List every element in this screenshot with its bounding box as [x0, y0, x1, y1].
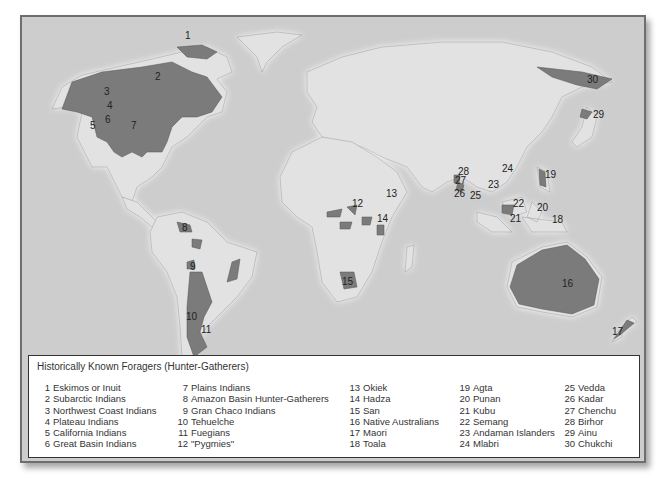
- legend-column-2: 7Plains Indians 8Amazon Basin Hunter-Gat…: [175, 382, 329, 450]
- map-label-3: 3: [104, 86, 110, 97]
- map-label-10: 10: [186, 311, 198, 322]
- legend-item: 10Tehuelche: [175, 416, 329, 427]
- map-label-11: 11: [201, 324, 212, 335]
- legend-item: 15San: [347, 405, 439, 416]
- legend-item: 20Punan: [457, 393, 555, 404]
- legend-item: 24Mlabri: [457, 438, 555, 449]
- map-label-19: 19: [545, 169, 557, 180]
- legend-item: 7Plains Indians: [175, 382, 329, 393]
- map-label-22: 22: [513, 198, 525, 209]
- map-label-6: 6: [105, 114, 111, 125]
- legend-item: 18Toala: [347, 438, 439, 449]
- legend-item: 21Kubu: [457, 405, 555, 416]
- legend-column-1: 1Eskimos or Inuit 2Subarctic Indians 3No…: [37, 382, 157, 450]
- legend-item: 29Ainu: [562, 427, 616, 438]
- map-label-23: 23: [488, 179, 500, 190]
- legend-item: 27Chenchu: [562, 405, 616, 416]
- legend-item: 17Maori: [347, 427, 439, 438]
- map-label-17: 17: [612, 326, 624, 337]
- legend-item: 1Eskimos or Inuit: [37, 382, 157, 393]
- legend-item: 3Northwest Coast Indians: [37, 405, 157, 416]
- legend-item: 16Native Australians: [347, 416, 439, 427]
- map-label-24: 24: [502, 163, 514, 174]
- legend-item: 22Semang: [457, 416, 555, 427]
- legend-item: 11Fuegians: [175, 427, 329, 438]
- legend-item: 25Vedda: [562, 382, 616, 393]
- map-label-26: 26: [454, 188, 466, 199]
- map-label-1: 1: [185, 30, 191, 41]
- legend-item: 8Amazon Basin Hunter-Gatherers: [175, 393, 329, 404]
- legend-item: 30Chukchi: [562, 438, 616, 449]
- legend-title: Historically Known Foragers (Hunter-Gath…: [37, 361, 249, 372]
- legend-item: 2Subarctic Indians: [37, 393, 157, 404]
- legend-item: 26Kadar: [562, 393, 616, 404]
- map-label-8: 8: [182, 222, 188, 233]
- map-label-5: 5: [90, 120, 96, 131]
- legend-item: 12"Pygmies": [175, 438, 329, 449]
- legend-item: 5California Indians: [37, 427, 157, 438]
- map-label-16: 16: [562, 278, 574, 289]
- map-label-21: 21: [510, 213, 522, 224]
- legend-item: 19Agta: [457, 382, 555, 393]
- map-label-2: 2: [155, 71, 161, 82]
- map-label-18: 18: [552, 214, 564, 225]
- map-label-13: 13: [386, 188, 398, 199]
- legend-item: 4Plateau Indians: [37, 416, 157, 427]
- map-label-29: 29: [593, 109, 605, 120]
- legend-item: 14Hadza: [347, 393, 439, 404]
- map-label-15: 15: [342, 276, 354, 287]
- legend-item: 6Great Basin Indians: [37, 438, 157, 449]
- legend-column-5: 25Vedda 26Kadar 27Chenchu 28Birhor 29Ain…: [562, 382, 616, 450]
- map-label-7: 7: [131, 120, 137, 131]
- map-label-20: 20: [537, 202, 549, 213]
- legend-column-4: 19Agta 20Punan 21Kubu 22Semang 23Andaman…: [457, 382, 555, 450]
- legend-item: 9Gran Chaco Indians: [175, 405, 329, 416]
- map-label-28: 28: [458, 166, 470, 177]
- map-label-9: 9: [190, 261, 196, 272]
- map-label-4: 4: [107, 100, 113, 111]
- legend-item: 28Birhor: [562, 416, 616, 427]
- legend-item: 13Okiek: [347, 382, 439, 393]
- map-label-25: 25: [470, 190, 482, 201]
- legend-column-3: 13Okiek 14Hadza 15San 16Native Australia…: [347, 382, 439, 450]
- map-label-12: 12: [352, 198, 364, 209]
- region-hadza: [377, 225, 384, 235]
- map-label-14: 14: [377, 213, 389, 224]
- map-label-30: 30: [587, 74, 599, 85]
- legend-item: 23Andaman Islanders: [457, 427, 555, 438]
- legend: Historically Known Foragers (Hunter-Gath…: [28, 355, 640, 458]
